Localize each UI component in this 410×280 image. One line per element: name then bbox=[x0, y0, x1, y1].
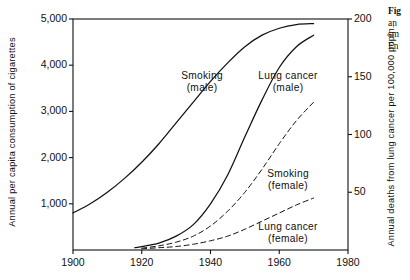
caption-line-3: En bbox=[388, 41, 410, 53]
caption-heading: Fig bbox=[388, 6, 410, 18]
curve-label-smoking-male-line1: Smoking bbox=[157, 70, 247, 82]
curve-label-smoking-female-line2: (female) bbox=[243, 180, 333, 192]
x-tick-label-1980: 1980 bbox=[326, 256, 370, 268]
figure-container: Annual per capita consumption of cigaret… bbox=[0, 0, 410, 280]
x-tick-label-1920: 1920 bbox=[120, 256, 164, 268]
curve-label-smoking-male: Smoking(male) bbox=[157, 70, 247, 95]
curve-label-lung-cancer-male: Lung cancer(male) bbox=[243, 70, 333, 95]
x-tick-label-1960: 1960 bbox=[257, 256, 301, 268]
right-tick-label-150: 150 bbox=[354, 70, 384, 82]
curve-label-smoking-female: Smoking(female) bbox=[243, 168, 333, 193]
left-tick-label-1000: 1,000 bbox=[25, 197, 67, 209]
right-tick-label-200: 200 bbox=[354, 12, 384, 24]
x-tick-label-1940: 1940 bbox=[189, 256, 233, 268]
caption-line-2: sm bbox=[388, 29, 410, 41]
x-tick-label-1900: 1900 bbox=[51, 256, 95, 268]
data-series-group bbox=[73, 24, 314, 249]
left-tick-label-5000: 5,000 bbox=[25, 12, 67, 24]
caption-line-1: an bbox=[388, 18, 410, 30]
right-tick-label-50: 50 bbox=[354, 185, 384, 197]
curve-label-lung-cancer-male-line2: (male) bbox=[243, 82, 333, 94]
right-tick-label-100: 100 bbox=[354, 128, 384, 140]
curve-label-smoking-female-line1: Smoking bbox=[243, 168, 333, 180]
left-tick-label-3000: 3,000 bbox=[25, 104, 67, 116]
curve-label-lung-cancer-male-line1: Lung cancer bbox=[243, 70, 333, 82]
line-chart-plot bbox=[0, 0, 410, 280]
tick-marks bbox=[69, 19, 352, 254]
curve-label-lung-cancer-female: Lung cancer(female) bbox=[243, 221, 333, 246]
curve-label-smoking-male-line2: (male) bbox=[157, 82, 247, 94]
left-axis-title: Annual per capita consumption of cigaret… bbox=[7, 7, 17, 257]
plot-frame bbox=[73, 19, 348, 250]
figure-caption: Fig an sm En bbox=[388, 6, 410, 52]
curve-label-lung-cancer-female-line1: Lung cancer bbox=[243, 221, 333, 233]
left-tick-label-2000: 2,000 bbox=[25, 151, 67, 163]
curve-label-lung-cancer-female-line2: (female) bbox=[243, 233, 333, 245]
plot-frame-rect bbox=[73, 19, 348, 250]
left-tick-label-4000: 4,000 bbox=[25, 58, 67, 70]
